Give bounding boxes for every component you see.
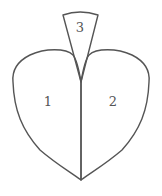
region-2-outline bbox=[81, 50, 149, 180]
region-3-label: 3 bbox=[76, 21, 84, 34]
region-2-label: 2 bbox=[109, 95, 117, 108]
region-1-outline bbox=[13, 50, 81, 180]
region-1-label: 1 bbox=[44, 95, 52, 108]
